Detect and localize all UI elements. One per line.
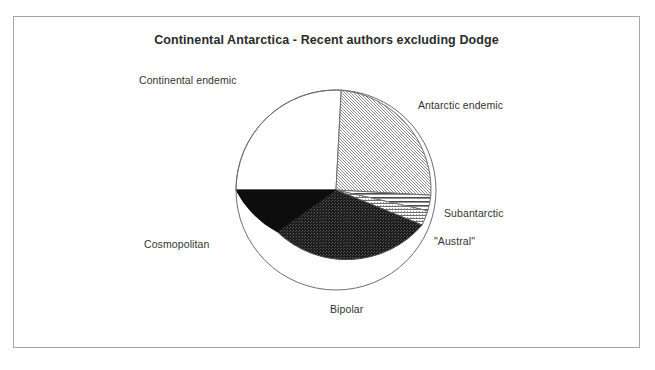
pie-chart-area: Continental endemic Antarctic endemic Su… bbox=[14, 17, 641, 349]
pie-label-austral: "Austral" bbox=[434, 235, 475, 247]
pie-slice-continental-endemic[interactable] bbox=[236, 90, 341, 190]
pie-label-continental-endemic: Continental endemic bbox=[139, 74, 237, 86]
chart-figure-frame: Continental Antarctica - Recent authors … bbox=[13, 16, 640, 348]
pie-label-bipolar: Bipolar bbox=[330, 303, 363, 315]
pie-chart-svg bbox=[14, 17, 641, 349]
pie-label-cosmopolitan: Cosmopolitan bbox=[144, 238, 209, 250]
pie-label-subantarctic: Subantarctic bbox=[444, 207, 504, 219]
pie-slice-antarctic-endemic[interactable] bbox=[336, 90, 431, 195]
pie-label-antarctic-endemic: Antarctic endemic bbox=[418, 99, 503, 111]
